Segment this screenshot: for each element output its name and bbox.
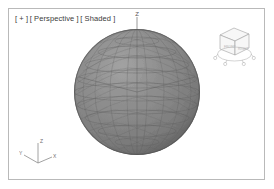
tripod-x-label: X bbox=[53, 153, 57, 159]
axis-tripod: Z Y X bbox=[19, 137, 59, 171]
tripod-z-label: Z bbox=[40, 138, 43, 144]
view-cube-graphic[interactable]: FRONT RIGHT bbox=[211, 23, 259, 71]
viewport-label[interactable]: [ + ][ Perspective ][ Shaded ] bbox=[15, 14, 117, 24]
view-cube[interactable]: FRONT RIGHT bbox=[211, 23, 259, 71]
z-axis-label: Z bbox=[135, 11, 139, 17]
axis-tripod-graphic: Z Y X bbox=[19, 137, 59, 171]
perspective-viewport[interactable]: Z bbox=[8, 8, 265, 180]
viewport-label-view[interactable]: [ Perspective ] bbox=[30, 14, 79, 24]
screenshot-root: Z bbox=[0, 0, 274, 189]
viewport-label-plus[interactable]: [ + ] bbox=[15, 14, 28, 24]
tripod-x-axis bbox=[38, 157, 52, 163]
viewport-label-shading[interactable]: [ Shaded ] bbox=[80, 14, 115, 24]
tripod-y-axis bbox=[24, 155, 38, 163]
tripod-y-label: Y bbox=[19, 150, 23, 156]
